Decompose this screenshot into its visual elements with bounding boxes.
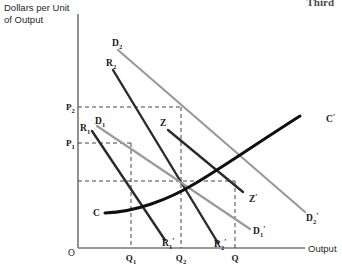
- label-Cprime: C′: [326, 113, 335, 124]
- label-Z: Z: [160, 118, 166, 128]
- x-tick-Q1: Q1: [126, 253, 136, 265]
- label-R1: R1: [80, 123, 90, 135]
- curve-R2: [113, 70, 218, 243]
- label-C: C: [93, 208, 100, 218]
- y-tick-P1: P1: [66, 138, 75, 150]
- x-tick-Q: Q: [231, 253, 238, 263]
- label-D2prime: D2′: [306, 212, 318, 225]
- label-R2: R2: [106, 58, 116, 70]
- label-D1prime: D1′: [253, 225, 265, 238]
- tick-labels-group: Q1Q2QP2P1: [66, 102, 239, 265]
- origin-label: O: [68, 248, 75, 258]
- label-D1: D1: [95, 116, 105, 128]
- y-tick-P2: P2: [66, 102, 75, 114]
- x-axis-label: Output: [308, 243, 337, 254]
- economics-diagram: Q1Q2QP2P1 D2R2D1R1ZC′CZ′D1′D2′R1′R2′ O O…: [0, 0, 342, 267]
- curve-annotations-group: D2R2D1R1ZC′CZ′D1′D2′R1′R2′: [80, 38, 335, 251]
- x-tick-Q2: Q2: [176, 253, 186, 265]
- label-D2: D2: [112, 38, 122, 50]
- label-Zprime: Z′: [249, 193, 258, 204]
- curve-C: [105, 116, 300, 213]
- curves-group: [92, 50, 305, 243]
